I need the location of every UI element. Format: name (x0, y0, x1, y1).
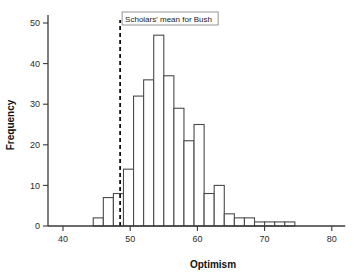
histogram-bar (113, 194, 123, 226)
y-tick-label: 0 (35, 221, 40, 231)
y-tick-label: 20 (30, 140, 40, 150)
x-axis-ticks: 4050607080 (58, 226, 337, 244)
histogram-bar (134, 96, 144, 226)
histogram-bar (214, 185, 224, 226)
y-tick-label: 50 (30, 18, 40, 28)
y-tick-label: 10 (30, 181, 40, 191)
histogram-bar (234, 218, 244, 226)
y-axis-ticks: 01020304050 (30, 18, 48, 231)
y-tick-label: 40 (30, 59, 40, 69)
histogram-bar (194, 125, 204, 227)
x-tick-label: 60 (192, 234, 202, 244)
x-tick-label: 40 (58, 234, 68, 244)
y-tick-label: 30 (30, 99, 40, 109)
x-tick-label: 70 (260, 234, 270, 244)
histogram-bar (184, 141, 194, 226)
histogram-bar (224, 214, 234, 226)
x-tick-label: 80 (327, 234, 337, 244)
histogram-bar (244, 218, 254, 226)
histogram-bar (204, 194, 214, 226)
y-axis-title: Frequency (5, 99, 16, 150)
histogram-bar (103, 198, 113, 226)
annotation-label: Scholars' mean for Bush (125, 15, 212, 24)
histogram-svg: 01020304050 4050607080 Scholars' mean fo… (0, 0, 358, 273)
histogram-chart: 01020304050 4050607080 Scholars' mean fo… (0, 0, 358, 273)
histogram-bar (144, 80, 154, 226)
x-axis-title: Optimism (190, 259, 236, 270)
annotation-group: Scholars' mean for Bush (122, 12, 218, 25)
histogram-bar (154, 35, 164, 226)
x-tick-label: 50 (125, 234, 135, 244)
histogram-bar (164, 76, 174, 226)
bars-group (93, 35, 295, 226)
histogram-bar (123, 169, 133, 226)
histogram-bar (174, 108, 184, 226)
histogram-bar (93, 218, 103, 226)
